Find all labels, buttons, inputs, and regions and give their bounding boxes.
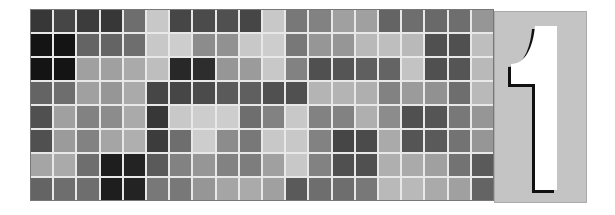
mosaic-cell: [124, 82, 145, 104]
mosaic-cell: [425, 130, 446, 152]
mosaic-cell: [472, 10, 493, 32]
mosaic-cell: [240, 82, 261, 104]
mosaic-cell: [240, 34, 261, 56]
mosaic-cell: [124, 154, 145, 176]
mosaic-cell: [147, 178, 168, 200]
mosaic-cell: [54, 34, 75, 56]
mosaic-cell: [286, 34, 307, 56]
grayscale-mosaic-grid: [30, 9, 494, 201]
mosaic-cell: [170, 82, 191, 104]
mosaic-cell: [356, 34, 377, 56]
mosaic-cell: [472, 154, 493, 176]
mosaic-cell: [124, 106, 145, 128]
mosaic-cell: [54, 58, 75, 80]
mosaic-cell: [472, 82, 493, 104]
mosaic-cell: [449, 82, 470, 104]
mosaic-cell: [217, 130, 238, 152]
mosaic-cell: [472, 58, 493, 80]
mosaic-cell: [240, 10, 261, 32]
mosaic-cell: [425, 10, 446, 32]
mosaic-cell: [170, 178, 191, 200]
mosaic-cell: [31, 178, 52, 200]
mosaic-cell: [170, 154, 191, 176]
mosaic-cell: [425, 82, 446, 104]
mosaic-cell: [286, 154, 307, 176]
mosaic-cell: [286, 10, 307, 32]
mosaic-cell: [193, 82, 214, 104]
mosaic-cell: [170, 58, 191, 80]
mosaic-cell: [240, 130, 261, 152]
mosaic-cell: [425, 34, 446, 56]
mosaic-cell: [356, 106, 377, 128]
mosaic-cell: [54, 10, 75, 32]
mosaic-cell: [54, 154, 75, 176]
mosaic-cell: [379, 58, 400, 80]
mosaic-cell: [449, 178, 470, 200]
mosaic-cell: [240, 106, 261, 128]
mosaic-cell: [124, 10, 145, 32]
mosaic-cell: [124, 130, 145, 152]
mosaic-cell: [77, 130, 98, 152]
mosaic-cell: [124, 58, 145, 80]
mosaic-cell: [333, 82, 354, 104]
mosaic-cell: [77, 34, 98, 56]
mosaic-cell: [77, 82, 98, 104]
mosaic-cell: [333, 106, 354, 128]
mosaic-cell: [309, 178, 330, 200]
mosaic-cell: [124, 34, 145, 56]
mosaic-cell: [31, 154, 52, 176]
mosaic-cell: [402, 130, 423, 152]
mosaic-cell: [309, 82, 330, 104]
mosaic-cell: [356, 10, 377, 32]
mosaic-cell: [402, 10, 423, 32]
mosaic-cell: [54, 178, 75, 200]
mosaic-cell: [193, 58, 214, 80]
mosaic-cell: [31, 82, 52, 104]
mosaic-cell: [54, 82, 75, 104]
mosaic-cell: [286, 178, 307, 200]
mosaic-cell: [379, 106, 400, 128]
mosaic-cell: [217, 10, 238, 32]
mosaic-cell: [193, 130, 214, 152]
mosaic-cell: [263, 10, 284, 32]
mosaic-cell: [449, 34, 470, 56]
numeral-panel: 1: [494, 11, 587, 203]
mosaic-cell: [425, 106, 446, 128]
mosaic-cell: [425, 154, 446, 176]
mosaic-cell: [449, 130, 470, 152]
mosaic-cell: [147, 34, 168, 56]
mosaic-cell: [356, 82, 377, 104]
mosaic-cell: [333, 10, 354, 32]
mosaic-cell: [379, 10, 400, 32]
mosaic-cell: [449, 10, 470, 32]
mosaic-cell: [379, 130, 400, 152]
mosaic-cell: [170, 10, 191, 32]
mosaic-cell: [472, 178, 493, 200]
mosaic-cell: [449, 106, 470, 128]
mosaic-cell: [147, 154, 168, 176]
mosaic-cell: [472, 106, 493, 128]
mosaic-cell: [240, 58, 261, 80]
mosaic-cell: [193, 10, 214, 32]
mosaic-cell: [77, 58, 98, 80]
mosaic-cell: [101, 82, 122, 104]
mosaic-cell: [31, 58, 52, 80]
mosaic-cell: [31, 10, 52, 32]
mosaic-cell: [263, 34, 284, 56]
mosaic-cell: [402, 58, 423, 80]
mosaic-cell: [217, 106, 238, 128]
mosaic-cell: [402, 178, 423, 200]
mosaic-cell: [217, 58, 238, 80]
mosaic-cell: [356, 130, 377, 152]
numeral-one-icon: [495, 12, 588, 204]
mosaic-cell: [449, 154, 470, 176]
mosaic-cell: [402, 34, 423, 56]
mosaic-cell: [124, 178, 145, 200]
mosaic-cell: [425, 178, 446, 200]
mosaic-cell: [286, 58, 307, 80]
mosaic-cell: [101, 178, 122, 200]
mosaic-cell: [170, 34, 191, 56]
mosaic-cell: [193, 34, 214, 56]
mosaic-cell: [356, 154, 377, 176]
mosaic-cell: [31, 106, 52, 128]
